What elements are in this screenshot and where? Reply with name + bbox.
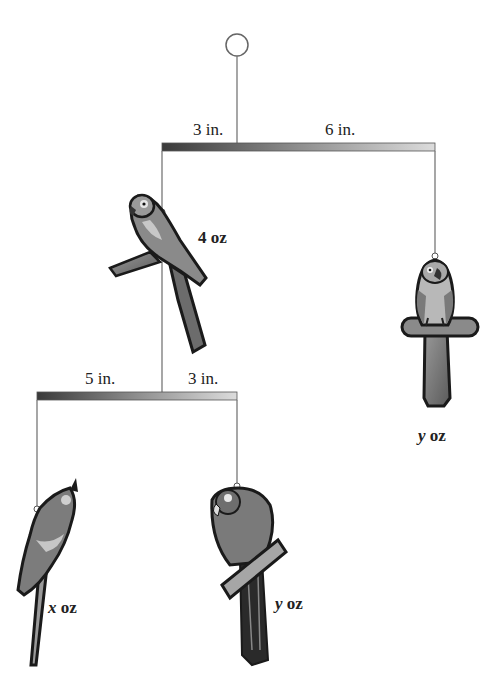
lower-bar <box>37 392 237 400</box>
weight-label-y-oz-right: y oz <box>418 426 446 446</box>
hanging-ring-icon <box>226 34 248 56</box>
lower-right-length-label: 3 in. <box>188 369 218 389</box>
mobile-diagram: 3 in. 6 in. 5 in. 3 in. 4 oz y oz x oz y… <box>0 0 503 686</box>
lower-left-length-label: 5 in. <box>85 369 115 389</box>
mobile-drawing <box>0 0 503 686</box>
weight-label-4oz: 4 oz <box>198 228 227 248</box>
parrot-y-oz-right-icon <box>402 253 478 406</box>
parrot-4oz-icon <box>110 195 206 352</box>
weight-label-x-oz: x oz <box>48 598 77 618</box>
parrot-y-oz-bottom-icon <box>212 483 286 665</box>
parrot-x-oz-icon <box>18 478 78 665</box>
weight-label-y-oz-bottom: y oz <box>275 594 303 614</box>
top-left-length-label: 3 in. <box>193 120 223 140</box>
top-bar <box>162 143 435 151</box>
top-right-length-label: 6 in. <box>325 120 355 140</box>
